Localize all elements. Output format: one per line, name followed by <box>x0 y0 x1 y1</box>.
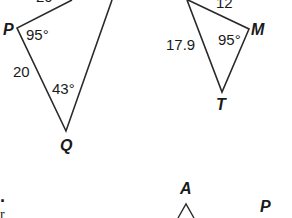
angle-p-label: 95° <box>26 27 49 42</box>
vertex-label-m: M <box>251 22 264 38</box>
left-triangle-edges <box>17 0 112 131</box>
side-pq-label: 20 <box>13 64 30 79</box>
side-top-label: 12 <box>216 0 233 10</box>
cut-off-angle-label: 20° <box>36 0 59 4</box>
angle-q-label: 43° <box>52 81 75 96</box>
margin-partial-char: r <box>0 208 5 218</box>
vertex-label-t: T <box>216 97 226 113</box>
vertex-label-p-left: P <box>3 22 14 38</box>
vertex-label-q: Q <box>60 138 72 154</box>
bottom-triangle-apex <box>178 204 194 218</box>
vertex-label-a: A <box>180 181 192 197</box>
angle-m-label: 95° <box>218 32 241 47</box>
side-left-label: 17.9 <box>166 37 195 52</box>
vertex-label-p-bottom: P <box>260 199 271 215</box>
geometry-figure: 20° P 95° 20 43° Q 12 17.9 95° M T A P ·… <box>0 0 292 218</box>
